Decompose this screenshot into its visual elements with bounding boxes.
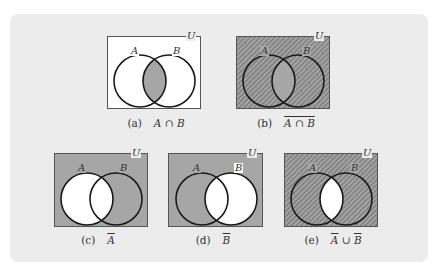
- label-universe-U: U: [362, 148, 372, 158]
- caption-expr: A ∩ B: [154, 117, 185, 129]
- venn-b-complement-intersection: [236, 36, 330, 109]
- label-set-B: B: [234, 163, 243, 173]
- label-set-B: B: [350, 163, 359, 173]
- caption-d: (d)B: [196, 234, 231, 246]
- label-set-A: A: [192, 163, 201, 173]
- venn-a-intersection: [107, 36, 201, 109]
- label-set-A: A: [260, 46, 269, 56]
- caption-a: (a)A ∩ B: [127, 117, 184, 129]
- caption-c: (c)A: [81, 234, 115, 246]
- caption-expr: A: [331, 234, 339, 246]
- label-set-A: A: [77, 163, 86, 173]
- caption-b: (b)A ∩ B: [257, 117, 315, 129]
- label-universe-U: U: [131, 148, 141, 158]
- caption-e: (e)A ∪ B: [304, 234, 361, 246]
- label-universe-U: U: [186, 31, 196, 41]
- label-set-B: B: [302, 46, 311, 56]
- label-set-A: A: [308, 163, 317, 173]
- caption-tag: (b): [257, 117, 272, 129]
- caption-expr: B: [354, 234, 362, 246]
- caption-tag: (a): [127, 117, 141, 129]
- venn-d-complement-B: [168, 153, 263, 227]
- label-set-A: A: [130, 46, 139, 56]
- label-universe-U: U: [247, 148, 257, 158]
- caption-tag: (c): [81, 234, 95, 246]
- label-set-B: B: [172, 46, 181, 56]
- venn-c-complement-A: [54, 153, 148, 227]
- caption-expr: ∪: [338, 234, 353, 246]
- caption-expr: B: [223, 234, 231, 246]
- caption-expr: A: [107, 234, 115, 246]
- label-universe-U: U: [314, 31, 324, 41]
- caption-expr: A ∩ B: [284, 117, 315, 129]
- label-set-B: B: [119, 163, 128, 173]
- caption-tag: (d): [196, 234, 211, 246]
- venn-e-union-complements: [284, 153, 378, 227]
- caption-tag: (e): [304, 234, 318, 246]
